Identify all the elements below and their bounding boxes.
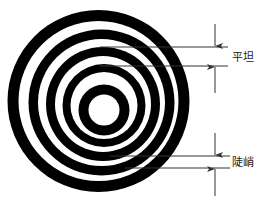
rings-group bbox=[8, 10, 190, 192]
label-steep: 陡峭 bbox=[232, 156, 254, 169]
label-flat: 平坦 bbox=[232, 50, 254, 64]
concentric-rings-figure: 平坦陡峭 bbox=[0, 0, 268, 203]
ring-5-gap bbox=[89, 95, 120, 126]
